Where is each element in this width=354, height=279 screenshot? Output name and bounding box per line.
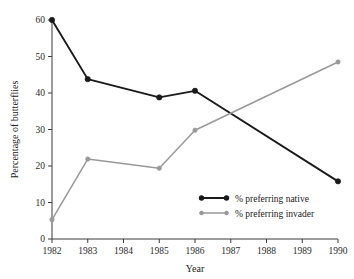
x-tick-label: 1983 [78, 246, 97, 256]
y-tick-label: 40 [36, 88, 46, 98]
data-point-native-1986: % preferring native 1986: 40.6% [192, 88, 197, 93]
x-tick-label: 1987 [221, 246, 240, 256]
legend-marker-start-0 [199, 195, 204, 200]
data-point-native-1990: % preferring native 1990: 15.8% [335, 179, 340, 184]
y-axis-title: Percentage of butterflies [9, 81, 20, 179]
x-tick-label: 1986 [186, 246, 205, 256]
y-tick-label: 60 [36, 15, 46, 25]
series-line-native [52, 20, 338, 181]
data-series-group: % preferring native 1982: 60%% preferrin… [49, 17, 340, 222]
data-point-invader-1986: % preferring invader 1986: 29.8% [193, 128, 197, 132]
chart-legend: % preferring native% preferring invader [199, 194, 315, 219]
y-tick-label: 20 [36, 161, 46, 171]
data-point-native-1982: % preferring native 1982: 60% [49, 17, 54, 22]
data-point-invader-1983: % preferring invader 1983: 21.9% [86, 157, 90, 161]
data-point-invader-1982: % preferring invader 1982: 5.3% [50, 217, 54, 221]
x-tick-label: 1984 [114, 246, 133, 256]
x-axis: 198219831984198519861987198819891990 [43, 239, 348, 256]
data-point-invader-1985: % preferring invader 1985: 19.4% [157, 166, 161, 170]
chart-canvas: 0102030405060 19821983198419851986198719… [0, 0, 354, 279]
legend-marker-start-1 [199, 211, 203, 215]
legend-label-0: % preferring native [235, 194, 309, 204]
legend-label-1: % preferring invader [235, 209, 315, 219]
data-point-invader-1990: % preferring invader 1990: 48.5% [336, 60, 340, 64]
y-tick-label: 30 [36, 125, 46, 135]
y-tick-label: 50 [36, 52, 46, 62]
y-tick-label: 10 [36, 198, 46, 208]
data-point-native-1985: % preferring native 1985: 38.8% [157, 95, 162, 100]
legend-marker-end-0 [224, 195, 229, 200]
y-axis: 0102030405060 [36, 15, 53, 244]
x-tick-label: 1982 [43, 246, 62, 256]
legend-marker-end-1 [224, 211, 228, 215]
x-tick-label: 1989 [293, 246, 312, 256]
x-tick-label: 1990 [329, 246, 348, 256]
data-point-native-1983: % preferring native 1983: 43.8% [85, 76, 90, 81]
y-tick-label: 0 [40, 234, 45, 244]
x-tick-label: 1988 [257, 246, 276, 256]
x-axis-title: Year [186, 263, 205, 274]
x-tick-label: 1985 [150, 246, 169, 256]
butterfly-preference-chart: 0102030405060 19821983198419851986198719… [0, 0, 354, 279]
